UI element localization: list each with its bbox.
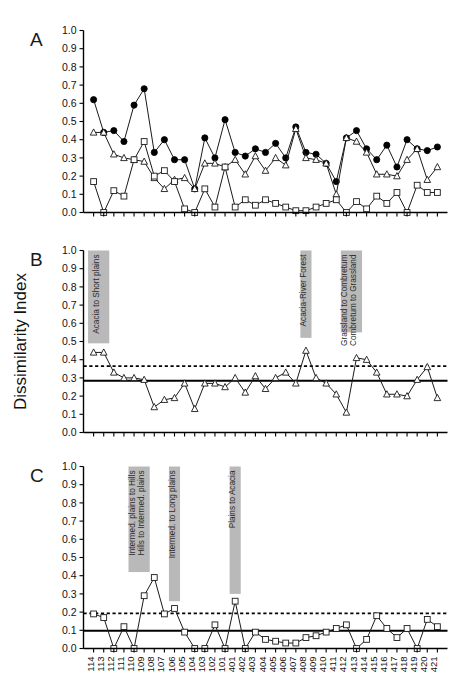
data-point [323,201,329,207]
data-point [404,626,410,632]
y-tick-label: 1.0 [62,244,77,256]
y-tick-label: 0.4 [62,133,77,145]
data-point [161,168,167,174]
data-point [172,606,178,612]
y-tick-label: 1.0 [62,460,77,472]
y-tick-label: 0.3 [62,372,77,384]
data-point [384,201,390,207]
y-tick-label: 0.8 [62,497,77,509]
data-point [141,86,147,92]
data-point [91,179,97,185]
data-point [424,616,430,622]
data-point [333,197,339,203]
annotation-band-label: Plains to Acacia [228,470,237,528]
data-point [252,629,258,635]
y-tick-label: 0.8 [62,61,77,73]
data-point [404,137,410,143]
data-point [293,640,299,646]
y-tick-label: 0.3 [62,152,77,164]
y-tick-label: 0.2 [62,390,77,402]
annotation-band-label: Grassland to Combretum [340,254,349,346]
data-point [434,624,440,630]
data-point [182,157,188,163]
data-point [273,201,279,207]
y-tick-label: 0.9 [62,478,77,490]
data-point [424,148,430,154]
y-axis-title: Dissimilarity Index [11,273,30,410]
data-point [151,149,157,155]
data-point [414,182,420,188]
data-point [141,593,147,599]
data-point [424,190,430,196]
y-axis-title-group: Dissimilarity Index [11,273,30,410]
panel-letter-a: A [30,29,43,50]
annotation-band-label: Hills to Intermed. plains [137,471,146,556]
data-point [161,137,167,143]
data-point [131,157,137,163]
data-point [202,135,208,141]
data-point [263,637,269,643]
data-point [384,626,390,632]
data-point [374,193,380,199]
data-point [313,633,319,639]
data-point [182,629,188,635]
y-tick-label: 0.4 [62,353,77,365]
y-tick-label: 0.9 [62,42,77,54]
data-point [91,97,97,103]
y-tick-label: 0.6 [62,533,77,545]
y-tick-label: 0.7 [62,515,77,527]
data-point [182,206,188,212]
data-point [151,575,157,581]
y-tick-label: 0.1 [62,408,77,420]
data-point [232,598,238,604]
panel-letter-b: B [30,249,43,270]
data-point [212,204,218,210]
data-point [242,153,248,159]
annotation-band-label: Combretum to Grassland [349,254,358,346]
data-point [111,128,117,134]
data-point [161,611,167,617]
annotation-band-label: Acacia-River Forest [299,254,308,327]
data-point [394,164,400,170]
data-point [283,204,289,210]
data-point [171,157,177,163]
y-tick-label: 0.5 [62,115,77,127]
data-point [303,635,309,641]
panel-letter-c: C [30,465,44,486]
data-point [353,128,359,134]
data-point [333,626,339,632]
data-point [262,149,268,155]
y-tick-label: 0.0 [62,206,77,218]
figure-root: 1.00.90.80.70.60.50.40.30.20.10.0A Acaci… [0,0,461,700]
data-point [91,611,97,617]
y-tick-label: 0.5 [62,551,77,563]
data-point [172,179,178,185]
data-point [252,146,258,152]
data-point [374,157,380,163]
data-point [121,138,127,144]
y-tick-label: 0.1 [62,188,77,200]
y-tick-label: 0.1 [62,624,77,636]
data-point [222,117,228,123]
data-point [434,190,440,196]
y-tick-label: 0.2 [62,606,77,618]
y-tick-label: 0.5 [62,335,77,347]
dissimilarity-index-figure: 1.00.90.80.70.60.50.40.30.20.10.0A Acaci… [0,0,461,700]
data-point [252,202,258,208]
data-point [232,149,238,155]
data-point [283,640,289,646]
y-tick-label: 0.6 [62,97,77,109]
y-tick-label: 0.8 [62,281,77,293]
annotation-band-label: Acacia to Short plains [92,255,101,334]
y-tick-label: 0.6 [62,317,77,329]
data-point [374,613,380,619]
x-tick-label: 421 [428,657,439,673]
data-point [384,142,390,148]
data-point [273,638,279,644]
data-point [394,190,400,196]
data-point [202,186,208,192]
data-point [364,206,370,212]
y-tick-label: 0.7 [62,299,77,311]
data-point [212,622,218,628]
y-tick-label: 0.7 [62,79,77,91]
